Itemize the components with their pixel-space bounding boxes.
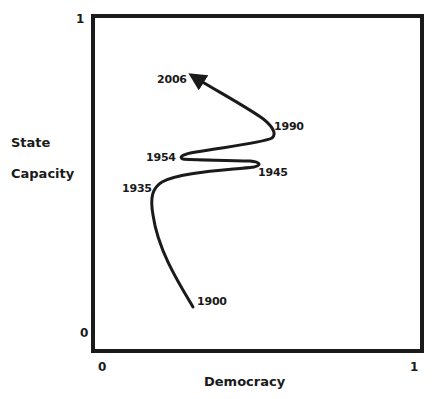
chart-canvas bbox=[0, 0, 432, 399]
label-1900: 1900 bbox=[197, 295, 227, 308]
label-1935: 1935 bbox=[122, 182, 152, 195]
x-axis-tick-right: 1 bbox=[410, 360, 418, 374]
y-axis-title-line2: Capacity bbox=[11, 166, 74, 181]
y-axis-tick-top: 1 bbox=[76, 12, 84, 26]
label-1945: 1945 bbox=[258, 166, 288, 179]
x-axis-tick-left: 0 bbox=[98, 360, 106, 374]
y-axis-title-line1: State bbox=[11, 135, 50, 150]
trajectory-curve bbox=[152, 78, 274, 307]
label-1954: 1954 bbox=[146, 151, 176, 164]
label-1990: 1990 bbox=[274, 120, 304, 133]
y-axis-tick-bottom: 0 bbox=[80, 326, 88, 340]
x-axis-title: Democracy bbox=[204, 374, 285, 389]
label-2006: 2006 bbox=[157, 73, 187, 86]
